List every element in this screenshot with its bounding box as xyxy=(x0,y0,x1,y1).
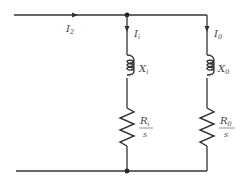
current-label-i0: I0 xyxy=(213,28,222,41)
svg-text:s: s xyxy=(143,130,147,139)
reactance-label-xi: Xi xyxy=(138,63,148,76)
current-label-i2: I2 xyxy=(65,23,74,36)
current-arrow-i2-icon xyxy=(72,13,78,18)
inner-branch xyxy=(120,15,134,171)
resistor-ri-icon xyxy=(120,108,134,146)
current-label-ii: Ii xyxy=(133,28,140,41)
resistance-label-ri-over-s: Ri s xyxy=(139,115,153,139)
inductor-x0-icon xyxy=(207,55,214,75)
current-arrow-ii-icon xyxy=(125,26,130,32)
circuit-diagram: I2 Ii Xi Ri s I0 X0 R0 s xyxy=(0,0,245,185)
svg-text:s: s xyxy=(224,130,228,139)
resistor-r0-icon xyxy=(200,108,214,146)
svg-text:R0: R0 xyxy=(219,115,232,128)
inductor-xi-icon xyxy=(127,55,134,75)
outer-branch xyxy=(200,15,214,171)
resistance-label-r0-over-s: R0 s xyxy=(219,115,235,139)
svg-text:Ri: Ri xyxy=(139,115,150,128)
reactance-label-x0: X0 xyxy=(217,63,229,76)
current-arrow-i0-icon xyxy=(205,26,210,32)
